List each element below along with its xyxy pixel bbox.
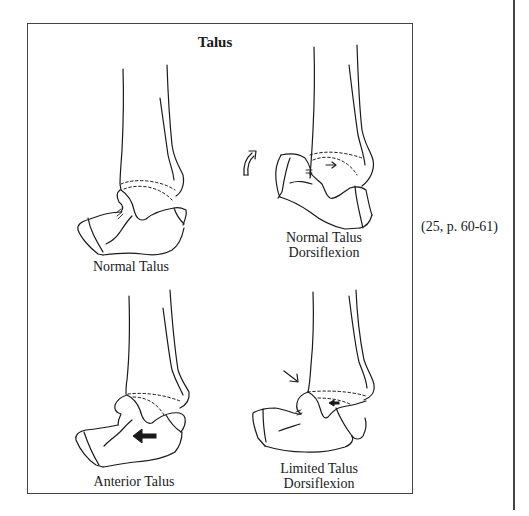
ankle-illustrations (0, 0, 529, 516)
curved-up-arrow-icon (244, 151, 256, 175)
panel-label-anterior-talus: Anterior Talus (84, 474, 184, 489)
panel-label-limited-talus-dorsiflexion: Limited Talus Dorsiflexion (269, 461, 369, 491)
panel-limited-talus-dorsiflexion-drawing (253, 290, 374, 452)
label-line: Limited Talus (269, 461, 369, 476)
right-arrow-icon (326, 162, 336, 168)
label-line: Anterior Talus (84, 474, 184, 489)
label-line: Normal Talus (81, 259, 181, 274)
label-line: Normal Talus (274, 230, 374, 245)
left-arrow-icon (133, 429, 156, 443)
small-left-arrow-icon (329, 400, 339, 406)
figure-citation: (25, p. 60-61) (421, 219, 498, 235)
label-line: Dorsiflexion (274, 245, 374, 260)
panel-normal-talus-drawing (78, 65, 186, 255)
down-right-arrow-icon (284, 371, 298, 382)
label-line: Dorsiflexion (269, 476, 369, 491)
panel-anterior-talus-drawing (76, 290, 189, 467)
panel-normal-talus-dorsiflexion-drawing (244, 45, 374, 229)
panel-label-normal-talus-dorsiflexion: Normal Talus Dorsiflexion (274, 230, 374, 260)
panel-label-normal-talus: Normal Talus (81, 259, 181, 274)
